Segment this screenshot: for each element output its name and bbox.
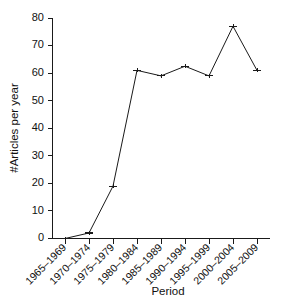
line-chart-plot: 01020304050607080 1965–19691970–19741975… [0,0,282,301]
y-tick-label: 60 [32,66,44,78]
chart-figure: 01020304050607080 1965–19691970–19741975… [0,0,282,301]
y-tick-label: 40 [32,121,44,133]
x-axis-title: Period [151,285,184,297]
y-tick-label: 20 [32,176,44,188]
y-tick-label: 50 [32,94,44,106]
y-axis-title: #Articles per year [8,83,20,173]
y-tick-label: 80 [32,11,44,23]
y-tick-label: 70 [32,38,44,50]
y-tick-label: 30 [32,149,44,161]
y-tick-label: 0 [38,231,44,243]
y-tick-label: 10 [32,204,44,216]
